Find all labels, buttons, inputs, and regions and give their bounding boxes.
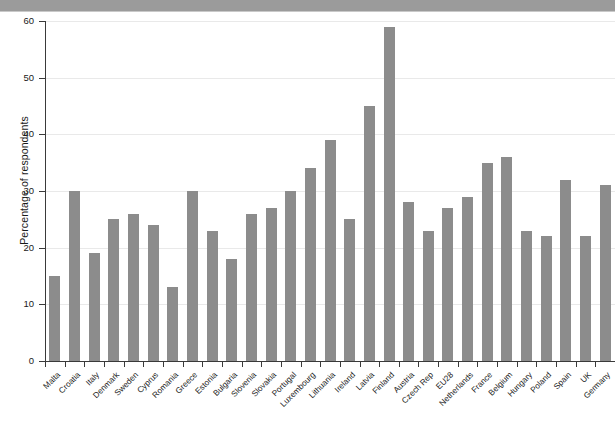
bar — [364, 106, 375, 361]
x-axis-tick — [556, 362, 557, 367]
bar — [285, 191, 296, 361]
x-axis-tick — [65, 362, 66, 367]
bar — [384, 27, 395, 361]
y-axis-tick — [39, 248, 45, 249]
bar — [128, 214, 139, 361]
y-axis-tick-label: 20 — [8, 243, 34, 253]
x-axis-tick — [281, 362, 282, 367]
bar — [305, 168, 316, 361]
bar — [403, 202, 414, 361]
x-axis-tick — [418, 362, 419, 367]
y-axis-tick-label: 10 — [8, 299, 34, 309]
x-axis-tick — [320, 362, 321, 367]
y-axis-tick — [39, 78, 45, 79]
x-axis-tick — [576, 362, 577, 367]
x-axis-tick — [124, 362, 125, 367]
bar — [226, 259, 237, 361]
x-axis-tick — [183, 362, 184, 367]
gridline — [45, 78, 615, 79]
bar — [325, 140, 336, 361]
y-axis-tick — [39, 191, 45, 192]
bar — [560, 180, 571, 361]
bar — [423, 231, 434, 361]
bar — [89, 253, 100, 361]
bar — [207, 231, 218, 361]
bar — [108, 219, 119, 361]
bar — [167, 287, 178, 361]
bar — [69, 191, 80, 361]
gridline — [45, 21, 615, 22]
y-axis-tick-label: 0 — [8, 356, 34, 366]
y-axis-tick — [39, 21, 45, 22]
x-axis-tick — [104, 362, 105, 367]
y-axis-tick-label: 40 — [8, 129, 34, 139]
bar — [580, 236, 591, 361]
bar — [148, 225, 159, 361]
x-axis-tick — [202, 362, 203, 367]
bar — [344, 219, 355, 361]
plot-area — [45, 21, 615, 361]
bar — [600, 185, 611, 361]
x-axis-tick — [84, 362, 85, 367]
x-axis-tick — [222, 362, 223, 367]
bar — [246, 214, 257, 361]
x-axis-tick — [261, 362, 262, 367]
y-axis-line — [45, 21, 46, 362]
bar — [541, 236, 552, 361]
x-axis-tick — [340, 362, 341, 367]
x-axis-tick — [595, 362, 596, 367]
x-axis-tick — [536, 362, 537, 367]
bar — [187, 191, 198, 361]
x-axis-tick — [242, 362, 243, 367]
bar — [49, 276, 60, 361]
gridline — [45, 134, 615, 135]
x-axis-tick — [143, 362, 144, 367]
x-axis-tick — [379, 362, 380, 367]
top-banner-strip — [0, 0, 615, 12]
y-axis-tick-label: 50 — [8, 73, 34, 83]
bar — [501, 157, 512, 361]
x-axis-tick — [477, 362, 478, 367]
bar — [266, 208, 277, 361]
x-axis-tick — [301, 362, 302, 367]
x-axis-line — [45, 361, 615, 362]
x-axis-tick — [517, 362, 518, 367]
x-axis-tick — [497, 362, 498, 367]
x-axis-tick — [45, 362, 46, 367]
x-axis-tick — [438, 362, 439, 367]
y-axis-tick-label: 30 — [8, 186, 34, 196]
y-axis-tick — [39, 304, 45, 305]
bar — [521, 231, 532, 361]
bar-chart-figure: Percentage of respondents 0102030405060 … — [0, 0, 615, 424]
bar — [462, 197, 473, 361]
x-axis-tick — [163, 362, 164, 367]
x-axis-tick — [360, 362, 361, 367]
y-axis-tick-label: 60 — [8, 16, 34, 26]
bar — [442, 208, 453, 361]
y-axis-tick — [39, 134, 45, 135]
bar — [482, 163, 493, 361]
x-axis-tick — [399, 362, 400, 367]
x-axis-tick — [458, 362, 459, 367]
